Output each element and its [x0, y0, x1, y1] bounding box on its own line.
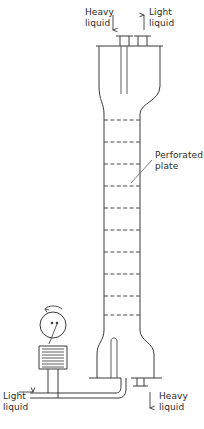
label-light-liquid-inlet: Light liquid [3, 391, 28, 412]
extraction-column-diagram: Heavy liquid Light liquid Perforated pla… [0, 0, 204, 429]
column-shell [104, 114, 140, 330]
label-heavy-liquid-inlet: Heavy liquid [85, 7, 114, 28]
top-chamber-right-taper [140, 86, 160, 114]
light-liquid-feed-pipe-inner [30, 378, 126, 398]
pulse-generator [39, 306, 67, 398]
pulse-connecting-rod [49, 324, 57, 344]
label-heavy-liquid-outlet: Heavy liquid [159, 391, 188, 412]
bottom-chamber-right-taper [140, 330, 154, 378]
label-perforated-plate: Perforated plate [155, 150, 203, 171]
perforated-plate-leader-line [131, 160, 152, 183]
bottom-chamber-left-taper [97, 330, 104, 378]
pulse-wheel-center-pin [51, 322, 54, 325]
light-liquid-riser-cap [111, 338, 117, 341]
top-settler-chamber [96, 46, 163, 114]
rotation-arrow-icon [45, 306, 62, 309]
light-liquid-feed-pipe-outer [30, 378, 121, 393]
top-nozzles [116, 36, 151, 46]
pulse-wheel-eccentric-pin [56, 322, 59, 325]
top-chamber-left-taper [99, 86, 104, 114]
label-light-liquid-outlet: Light liquid [149, 7, 174, 28]
diagram-canvas [0, 0, 204, 429]
perforated-plate-stack [104, 120, 140, 315]
bottom-settler-chamber [89, 330, 162, 378]
